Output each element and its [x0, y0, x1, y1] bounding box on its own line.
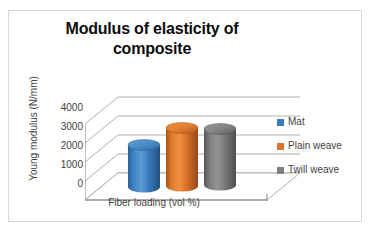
legend-item-plain-weave[interactable]: Plain weave [277, 140, 359, 152]
bar-plain-weave [166, 123, 198, 192]
plot-area [85, 91, 300, 201]
y-axis-tick-labels: 4000 3000 2000 1000 0 [47, 103, 83, 189]
legend-swatch-plain-weave [277, 143, 284, 150]
chart-title-line-1: Modulus of elasticity of [27, 19, 277, 39]
bar-mat [128, 140, 160, 193]
y-axis-label: Young modulus (N/mm) [28, 64, 39, 194]
chart-title: Modulus of elasticity of composite [27, 19, 277, 60]
chart-figure: Modulus of elasticity of composite Young… [8, 10, 362, 222]
y-tick-3000: 3000 [61, 122, 83, 132]
legend-item-mat[interactable]: Mat [277, 116, 359, 128]
y-tick-1000: 1000 [61, 160, 83, 170]
plot-svg [85, 91, 300, 201]
x-axis-label: Fiber loading (vol %) [79, 197, 229, 208]
legend-label-mat: Mat [288, 117, 305, 127]
chart-legend: Mat Plain weave Twill weave [277, 116, 359, 188]
legend-swatch-twill-weave [277, 167, 284, 174]
legend-label-plain-weave: Plain weave [288, 141, 342, 151]
bar-twill-weave [204, 124, 236, 191]
legend-swatch-mat [277, 119, 284, 126]
y-tick-0: 0 [77, 179, 83, 189]
chart-title-line-2: composite [27, 39, 277, 59]
y-tick-4000: 4000 [61, 103, 83, 113]
legend-label-twill-weave: Twill weave [288, 165, 339, 175]
y-tick-2000: 2000 [61, 141, 83, 151]
legend-item-twill-weave[interactable]: Twill weave [277, 164, 359, 176]
